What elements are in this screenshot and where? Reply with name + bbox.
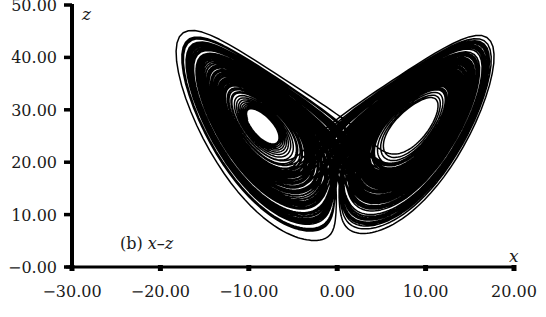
x-tick-label: −30.00	[42, 282, 101, 301]
panel-label-vars: x–z	[148, 234, 174, 253]
y-tick-label: 40.00	[11, 48, 57, 67]
y-ticks: −0.0010.0020.0030.0040.0050.00	[8, 0, 72, 277]
x-tick	[335, 265, 340, 271]
y-axis: −0.0010.0020.0030.0040.0050.00 z	[8, 0, 92, 277]
y-tick-label: 30.00	[11, 101, 57, 120]
x-tick	[423, 265, 428, 271]
y-axis-title: z	[81, 4, 92, 24]
x-axis-title: x	[509, 246, 519, 266]
panel-label-prefix: (b)	[120, 234, 148, 253]
x-tick	[158, 265, 163, 271]
panel-label: (b) x–z	[120, 234, 174, 253]
y-tick-label: −0.00	[8, 258, 57, 277]
x-tick-label: −20.00	[131, 282, 190, 301]
x-ticks: −30.00−20.00−10.000.0010.0020.00	[42, 265, 537, 301]
x-tick	[246, 265, 251, 271]
lorenz-xz-chart: −0.0010.0020.0030.0040.0050.00 z −30.00−…	[0, 0, 546, 317]
attractor-trajectory	[176, 31, 494, 241]
x-tick-label: 0.00	[319, 282, 355, 301]
y-tick-label: 10.00	[11, 206, 57, 225]
x-tick-label: −10.00	[219, 282, 278, 301]
plot-area	[176, 31, 494, 241]
x-tick	[70, 265, 75, 271]
y-tick-label: 20.00	[11, 153, 57, 172]
x-axis: −30.00−20.00−10.000.0010.0020.00 x	[42, 246, 537, 301]
y-tick-label: 50.00	[11, 0, 57, 15]
x-tick-label: 10.00	[403, 282, 449, 301]
x-tick-label: 20.00	[491, 282, 537, 301]
